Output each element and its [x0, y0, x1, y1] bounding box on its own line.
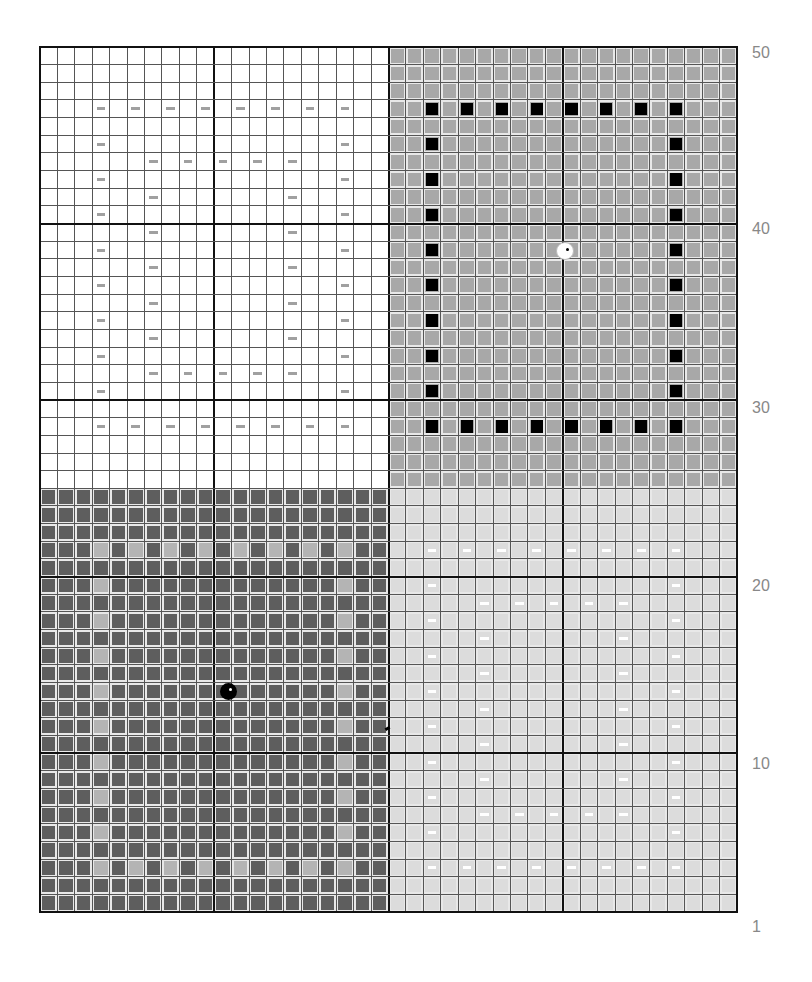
stitch-cell [40, 594, 57, 612]
stitch-cell [563, 594, 580, 612]
stitch-cell [389, 877, 406, 895]
stitch-cell [127, 753, 144, 771]
stitch-cell [615, 824, 632, 842]
stitch-cell [267, 894, 284, 912]
stitch-cell [423, 259, 440, 277]
stitch-cell [720, 418, 737, 436]
stitch-cell [528, 259, 545, 277]
stitch-cell [685, 735, 702, 753]
stitch-cell [336, 135, 353, 153]
stitch-cell [40, 276, 57, 294]
stitch-cell [336, 82, 353, 100]
stitch-cell [545, 771, 562, 789]
stitch-cell [632, 771, 649, 789]
stitch-cell [301, 82, 318, 100]
stitch-cell [458, 665, 475, 683]
stitch-cell [615, 347, 632, 365]
stitch-cell [580, 859, 597, 877]
stitch-cell [232, 471, 249, 489]
stitch-cell [528, 100, 545, 118]
stitch-cell [632, 206, 649, 224]
stitch-cell [510, 612, 527, 630]
stitch-cell [371, 153, 388, 171]
stitch-cell [441, 735, 458, 753]
stitch-cell [214, 877, 231, 895]
stitch-cell [545, 753, 562, 771]
stitch-cell [127, 806, 144, 824]
stitch-cell [615, 700, 632, 718]
stitch-cell [406, 683, 423, 701]
stitch-cell [423, 206, 440, 224]
stitch-cell [528, 735, 545, 753]
stitch-cell [214, 82, 231, 100]
stitch-cell [441, 418, 458, 436]
stitch-cell [528, 877, 545, 895]
stitch-cell [580, 788, 597, 806]
stitch-cell [685, 577, 702, 595]
stitch-cell [685, 206, 702, 224]
stitch-cell [702, 365, 719, 383]
grid-line [40, 523, 737, 524]
stitch-cell [580, 100, 597, 118]
stitch-cell [667, 188, 684, 206]
stitch-cell [127, 118, 144, 136]
stitch-cell [110, 594, 127, 612]
stitch-cell [632, 700, 649, 718]
stitch-cell [110, 771, 127, 789]
stitch-cell [598, 612, 615, 630]
stitch-cell [632, 171, 649, 189]
stitch-cell [267, 647, 284, 665]
stitch-cell [720, 541, 737, 559]
stitch-cell [615, 524, 632, 542]
stitch-cell [702, 506, 719, 524]
stitch-cell [441, 594, 458, 612]
stitch-cell [528, 365, 545, 383]
stitch-cell [267, 135, 284, 153]
stitch-cell [615, 647, 632, 665]
stitch-cell [598, 259, 615, 277]
stitch-cell [354, 188, 371, 206]
stitch-cell [423, 65, 440, 83]
stitch-cell [197, 47, 214, 65]
stitch-cell [528, 683, 545, 701]
stitch-cell [510, 206, 527, 224]
stitch-cell [214, 65, 231, 83]
stitch-cell [179, 347, 196, 365]
stitch-cell [423, 612, 440, 630]
stitch-cell [92, 471, 109, 489]
stitch-cell [493, 541, 510, 559]
stitch-cell [563, 577, 580, 595]
stitch-cell [563, 47, 580, 65]
stitch-cell [319, 453, 336, 471]
stitch-cell [580, 824, 597, 842]
stitch-cell [284, 488, 301, 506]
stitch-cell [232, 700, 249, 718]
stitch-cell [563, 435, 580, 453]
black-stitch [461, 103, 473, 115]
stitch-cell [441, 877, 458, 895]
stitch-cell [406, 100, 423, 118]
stitch-cell [301, 382, 318, 400]
stitch-cell [40, 188, 57, 206]
stitch-cell [319, 630, 336, 648]
stitch-cell [528, 382, 545, 400]
stitch-cell [510, 259, 527, 277]
stitch-cell [110, 65, 127, 83]
stitch-cell [702, 259, 719, 277]
stitch-cell [563, 824, 580, 842]
stitch-cell [214, 894, 231, 912]
stitch-cell [110, 188, 127, 206]
stitch-cell [528, 276, 545, 294]
stitch-cell [110, 647, 127, 665]
grid-line [40, 541, 737, 542]
stitch-cell [458, 329, 475, 347]
stitch-cell [354, 418, 371, 436]
stitch-cell [40, 365, 57, 383]
stitch-cell [528, 347, 545, 365]
stitch-cell [319, 735, 336, 753]
stitch-cell [615, 683, 632, 701]
stitch-cell [301, 312, 318, 330]
stitch-cell [284, 400, 301, 418]
stitch-cell [528, 647, 545, 665]
stitch-cell [371, 735, 388, 753]
